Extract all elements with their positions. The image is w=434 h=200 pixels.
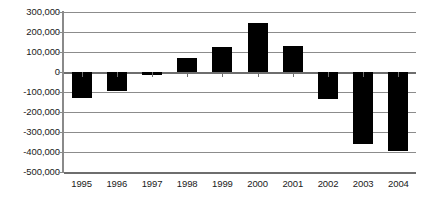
y-axis-tick xyxy=(58,112,63,113)
x-axis-tick-label: 1999 xyxy=(212,178,233,189)
y-axis-tick-label: -400,000 xyxy=(0,147,60,157)
x-axis-tick xyxy=(222,72,223,77)
x-axis-tick xyxy=(363,72,364,77)
x-axis-tick-label: 1997 xyxy=(142,178,163,189)
x-axis-tick-label: 1995 xyxy=(71,178,92,189)
y-axis-tick-labels: 300,000200,000100,0000-100,000-200,000-3… xyxy=(0,0,60,200)
x-axis-tick xyxy=(293,72,294,77)
y-axis-tick-label: -100,000 xyxy=(0,87,60,97)
y-axis-tick xyxy=(58,132,63,133)
x-axis-tick-label: 1998 xyxy=(177,178,198,189)
y-axis-tick xyxy=(58,152,63,153)
x-axis-tick-label: 2003 xyxy=(353,178,374,189)
y-axis-tick xyxy=(58,52,63,53)
x-axis-ticks xyxy=(64,0,416,200)
y-axis-tick-label: 300,000 xyxy=(0,7,60,17)
x-axis-tick-labels: 1995199619971998199920002001200220032004 xyxy=(64,178,416,194)
x-axis-tick xyxy=(117,72,118,77)
y-axis-tick xyxy=(58,92,63,93)
y-axis-tick xyxy=(58,72,63,73)
x-axis-tick-label: 2004 xyxy=(388,178,409,189)
y-axis-tick-label: 0 xyxy=(0,67,60,77)
x-axis-tick-label: 2001 xyxy=(282,178,303,189)
x-axis-tick xyxy=(398,72,399,77)
y-axis-tick-label: -500,000 xyxy=(0,167,60,177)
x-axis-tick xyxy=(82,72,83,77)
y-axis-tick-label: -200,000 xyxy=(0,107,60,117)
y-axis-tick-label: 100,000 xyxy=(0,47,60,57)
y-axis-tick-label: -300,000 xyxy=(0,127,60,137)
bar-chart: 300,000200,000100,0000-100,000-200,000-3… xyxy=(0,0,434,200)
x-axis-tick-label: 2000 xyxy=(247,178,268,189)
x-axis-tick-label: 2002 xyxy=(318,178,339,189)
x-axis-tick xyxy=(328,72,329,77)
y-axis-tick xyxy=(58,12,63,13)
x-axis-tick xyxy=(152,72,153,77)
x-axis-tick xyxy=(258,72,259,77)
y-axis-tick-label: 200,000 xyxy=(0,27,60,37)
x-axis-tick-label: 1996 xyxy=(106,178,127,189)
y-axis-tick xyxy=(58,172,63,173)
x-axis-tick xyxy=(187,72,188,77)
y-axis-tick xyxy=(58,32,63,33)
